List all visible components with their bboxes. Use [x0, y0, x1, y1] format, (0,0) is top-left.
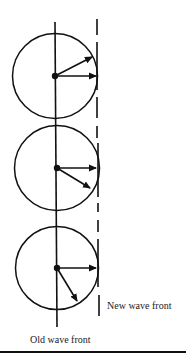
arrow-icon	[57, 268, 77, 301]
arrow-icon	[55, 57, 92, 76]
old-wave-front-line	[55, 22, 57, 327]
wavelet-2	[15, 126, 100, 211]
bottom-divider	[0, 351, 186, 353]
arrow-icon	[57, 168, 90, 188]
source-point	[54, 165, 60, 171]
new-wave-front-label: New wave front	[107, 301, 171, 311]
source-point	[54, 265, 60, 271]
old-wave-front-label: Old wave front	[30, 335, 91, 345]
source-point	[52, 73, 58, 79]
